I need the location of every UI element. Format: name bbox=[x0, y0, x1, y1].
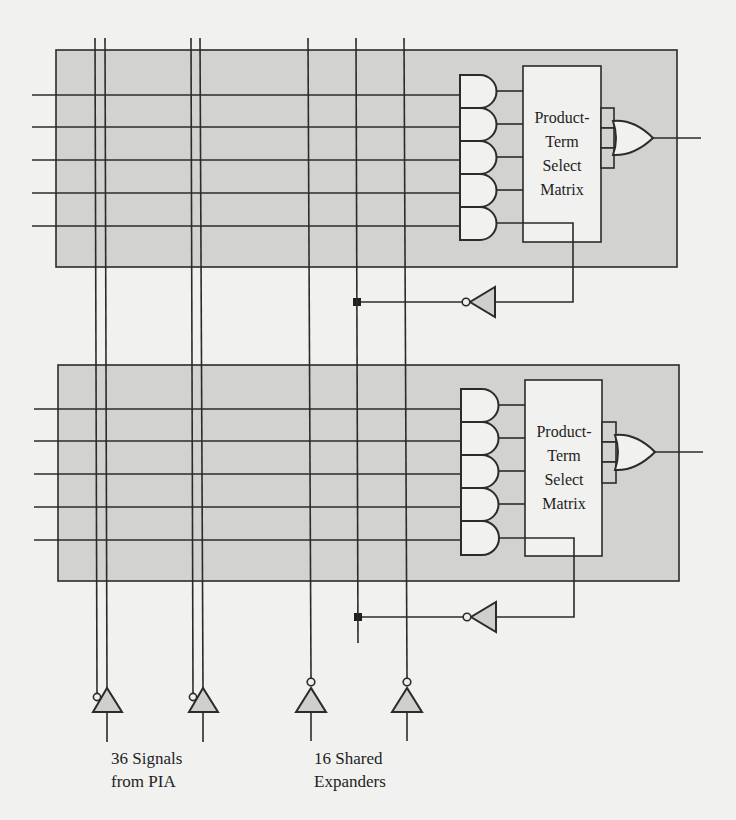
and-gate-icon bbox=[461, 422, 499, 455]
ptsm-label-line: Select bbox=[525, 468, 603, 492]
pia-label-line-1: 36 Signals bbox=[111, 747, 182, 770]
ptsm-label-line: Term bbox=[523, 130, 601, 154]
pia-buffer-1 bbox=[93, 688, 122, 742]
ptsm-label-line: Product- bbox=[525, 420, 603, 444]
expanders-label-line-1: 16 Shared bbox=[314, 747, 386, 770]
pld-diagram: Product- Term Select Matrix Product- Ter… bbox=[0, 0, 736, 820]
pia-signals-label: 36 Signals from PIA bbox=[111, 747, 182, 793]
expander-buffers bbox=[296, 678, 422, 741]
inverter-icon bbox=[471, 602, 496, 632]
expander-buffer-2 bbox=[392, 678, 422, 741]
pia-label-line-2: from PIA bbox=[111, 770, 182, 793]
and-gate-icon bbox=[460, 108, 497, 141]
ptsm-label-line: Product- bbox=[523, 106, 601, 130]
and-gate-icon bbox=[461, 455, 499, 488]
inverting-buffer-icon bbox=[296, 688, 326, 712]
macrocell-2-and-gates bbox=[461, 389, 499, 555]
ptsm-label-line: Matrix bbox=[523, 178, 601, 202]
expanders-label-line-2: Expanders bbox=[314, 770, 386, 793]
macrocell-1-and-gates bbox=[460, 75, 497, 240]
and-gate-icon bbox=[460, 174, 497, 207]
and-gate-icon bbox=[461, 488, 499, 521]
and-gate-icon bbox=[460, 141, 497, 174]
inverter-icon bbox=[470, 287, 495, 317]
pia-buffer-2 bbox=[189, 688, 218, 742]
and-gate-icon bbox=[460, 75, 497, 108]
inverting-buffer-icon bbox=[392, 688, 422, 712]
ptsm-label-line: Term bbox=[525, 444, 603, 468]
and-gate-icon bbox=[460, 207, 497, 240]
and-gate-icon bbox=[461, 389, 499, 422]
ptsm-label-line: Matrix bbox=[525, 492, 603, 516]
ptsm-2-label: Product- Term Select Matrix bbox=[525, 420, 603, 516]
pia-buffers bbox=[93, 688, 218, 742]
schematic-svg bbox=[0, 0, 736, 820]
shared-expanders-label: 16 Shared Expanders bbox=[314, 747, 386, 793]
ptsm-1-label: Product- Term Select Matrix bbox=[523, 106, 601, 202]
and-gate-icon bbox=[461, 521, 499, 555]
expander-buffer-1 bbox=[296, 678, 326, 741]
ptsm-label-line: Select bbox=[523, 154, 601, 178]
